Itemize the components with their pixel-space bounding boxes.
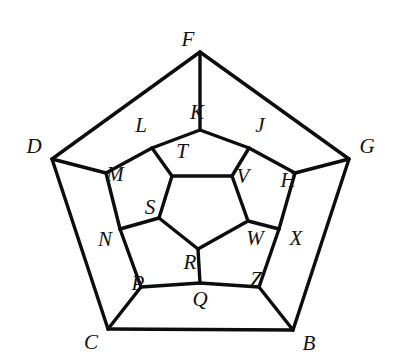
vertex-label-Q: Q <box>192 287 207 311</box>
graph-edge-ST <box>159 176 172 218</box>
graph-edge-CB <box>108 329 293 330</box>
graph-edge-PQ <box>141 283 200 287</box>
vertex-label-J: J <box>255 113 266 137</box>
graph-edge-QR <box>198 249 200 283</box>
vertex-label-X: X <box>289 226 304 250</box>
vertex-label-G: G <box>359 134 374 158</box>
graph-edge-DM <box>52 159 106 173</box>
vertex-label-Z: Z <box>250 267 262 291</box>
vertex-label-L: L <box>134 113 147 137</box>
vertex-label-H: H <box>279 168 297 192</box>
graph-edge-BZ <box>259 287 293 330</box>
graph-edge-JK <box>200 130 249 148</box>
graph-edge-GF <box>200 52 349 159</box>
vertex-label-F: F <box>181 27 195 51</box>
graph-edge-NS <box>120 218 159 229</box>
dodecahedron-figure: FDGCBKLJMHNXPZQTVSWR <box>0 0 393 359</box>
vertex-label-W: W <box>246 226 266 250</box>
graph-edge-WR <box>198 221 248 249</box>
vertex-label-B: B <box>303 331 316 355</box>
vertex-label-R: R <box>183 250 197 274</box>
vertex-label-S: S <box>145 195 156 219</box>
graph-edge-RS <box>159 218 198 249</box>
graph-edge-LT <box>152 148 172 176</box>
dodecahedron-schlegel-diagram: FDGCBKLJMHNXPZQTVSWR <box>0 0 393 359</box>
vertex-label-D: D <box>25 134 41 158</box>
vertex-label-N: N <box>97 227 113 251</box>
vertex-label-V: V <box>237 164 252 188</box>
vertex-label-K: K <box>189 100 205 124</box>
vertex-label-M: M <box>105 162 125 186</box>
vertex-label-T: T <box>176 139 189 163</box>
graph-edge-GH <box>295 159 349 173</box>
vertex-label-P: P <box>131 271 145 295</box>
vertex-label-C: C <box>84 330 99 354</box>
